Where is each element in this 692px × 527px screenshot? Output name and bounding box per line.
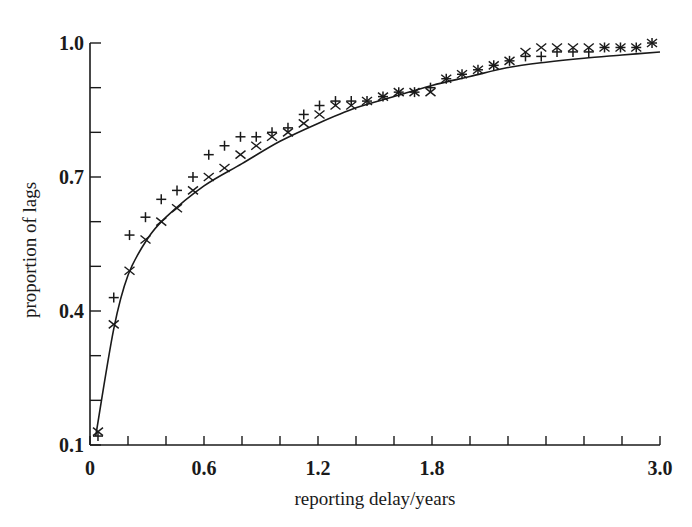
plus-marker xyxy=(520,51,530,61)
plus-marker xyxy=(109,293,119,303)
cross-marker xyxy=(172,204,182,212)
x-tick-label: 3.0 xyxy=(648,457,673,479)
cross-markers xyxy=(93,39,657,436)
x-tick-label: 0 xyxy=(85,457,95,479)
plus-marker xyxy=(93,431,103,441)
x-axis-label: reporting delay/years xyxy=(295,488,456,509)
cross-marker xyxy=(204,173,214,181)
plus-marker xyxy=(568,47,578,57)
cross-marker xyxy=(220,164,230,172)
plus-marker xyxy=(299,109,309,119)
cross-marker xyxy=(251,142,261,150)
fitted-curve xyxy=(96,52,660,436)
plus-marker xyxy=(584,47,594,57)
plus-marker xyxy=(251,132,261,142)
plus-marker xyxy=(188,172,198,182)
chart: 0.10.40.71.0 00.61.21.83.0 reporting del… xyxy=(0,0,692,527)
cross-marker xyxy=(299,119,309,127)
x-tick-label: 1.2 xyxy=(306,457,331,479)
y-tick-label: 0.4 xyxy=(59,300,84,322)
cross-marker xyxy=(235,151,245,159)
plus-marker xyxy=(204,150,214,160)
plus-marker xyxy=(267,127,277,137)
x-axis-ticks: 00.61.21.83.0 xyxy=(85,436,673,479)
plus-markers xyxy=(93,38,657,441)
plus-marker xyxy=(552,47,562,57)
plus-marker xyxy=(315,101,325,111)
x-tick-label: 1.8 xyxy=(420,457,445,479)
plus-marker xyxy=(330,96,340,106)
plus-marker xyxy=(283,123,293,133)
plus-marker xyxy=(346,96,356,106)
cross-marker xyxy=(315,110,325,118)
plus-marker xyxy=(156,194,166,204)
cross-marker xyxy=(156,218,166,226)
axes xyxy=(90,43,660,445)
cross-marker xyxy=(125,267,135,275)
plus-marker xyxy=(220,141,230,151)
y-axis-ticks: 0.10.40.71.0 xyxy=(59,32,101,456)
y-tick-label: 1.0 xyxy=(59,32,84,54)
plus-marker xyxy=(235,132,245,142)
y-axis-label: proportion of lags xyxy=(19,182,40,318)
plus-marker xyxy=(536,51,546,61)
plus-marker xyxy=(172,185,182,195)
cross-marker xyxy=(536,43,546,51)
y-tick-label: 0.1 xyxy=(59,434,84,456)
plus-marker xyxy=(125,230,135,240)
y-tick-label: 0.7 xyxy=(59,166,84,188)
plus-marker xyxy=(140,212,150,222)
x-tick-label: 0.6 xyxy=(192,457,217,479)
